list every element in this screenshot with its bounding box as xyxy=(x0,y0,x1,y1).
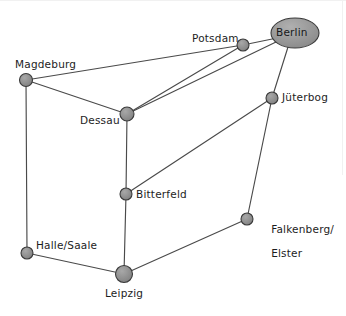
edge-magdeburg-halle xyxy=(26,80,27,253)
node-leipzig[interactable] xyxy=(116,266,133,283)
node-label-halle: Halle/Saale xyxy=(36,239,97,251)
node-label-juterbog: Jüterbog xyxy=(282,91,328,103)
node-bitterfeld[interactable] xyxy=(120,188,132,200)
diagram-canvas: Berlin Potsdam Magdeburg Jüterbog Dessau… xyxy=(0,0,346,316)
node-potsdam[interactable] xyxy=(237,39,249,51)
edge-falkenberg-leipzig xyxy=(124,219,247,274)
edge-potsdam-dessau xyxy=(127,45,243,114)
node-label-falkenberg: Falkenberg/ Elster xyxy=(257,211,334,271)
node-label-magdeburg: Magdeburg xyxy=(15,58,76,70)
edge-halle-leipzig xyxy=(27,253,124,274)
edge-dessau-berlin xyxy=(127,42,276,114)
edge-juterbog-bitterfeld xyxy=(126,98,272,194)
node-label-bitterfeld: Bitterfeld xyxy=(136,188,187,200)
node-halle[interactable] xyxy=(21,247,33,259)
edge-dessau-bitterfeld xyxy=(126,114,127,194)
node-juterbog[interactable] xyxy=(266,92,278,104)
node-dessau[interactable] xyxy=(120,107,134,121)
edge-juterbog-falkenberg xyxy=(247,98,272,219)
node-magdeburg[interactable] xyxy=(20,74,33,87)
node-label-dessau: Dessau xyxy=(80,114,120,126)
node-label-berlin: Berlin xyxy=(276,26,308,38)
node-label-falkenberg-line1: Falkenberg/ xyxy=(271,223,334,235)
node-label-falkenberg-line2: Elster xyxy=(271,247,302,259)
node-label-leipzig: Leipzig xyxy=(105,287,143,299)
node-label-potsdam: Potsdam xyxy=(192,32,239,44)
node-falkenberg[interactable] xyxy=(241,213,253,225)
edge-magdeburg-dessau xyxy=(26,80,127,114)
edge-bitterfeld-leipzig xyxy=(124,194,126,274)
